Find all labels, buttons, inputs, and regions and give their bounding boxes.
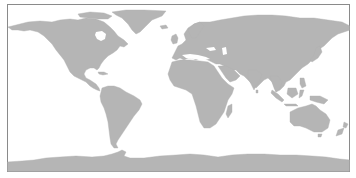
java [284,104,298,106]
sri-lanka [256,90,258,93]
australia [290,104,330,132]
tasmania [318,134,322,137]
philippines [300,78,306,88]
north-america [8,18,128,91]
madagascar [226,104,232,118]
india [248,70,262,90]
caribbean-islands [98,72,108,75]
world-map[interactable] [0,0,356,178]
greenland [112,10,166,34]
sumatra [271,90,284,102]
borneo [287,88,298,98]
sulawesi [299,90,304,98]
arctic-islands [78,12,112,19]
new-guinea [310,96,328,104]
iceland [160,25,168,29]
antarctica [7,150,350,172]
new-zealand [336,122,348,136]
south-america [100,86,142,148]
british-isles [171,34,178,44]
